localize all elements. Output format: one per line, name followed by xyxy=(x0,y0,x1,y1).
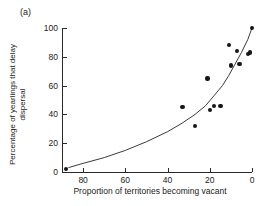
scatter-point xyxy=(64,167,68,171)
scatter-point xyxy=(208,108,212,112)
scatter-point xyxy=(248,50,252,54)
x-tick-label: 20 xyxy=(205,176,214,185)
scatter-point xyxy=(235,49,239,53)
y-tick-label: 40 xyxy=(49,110,58,119)
y-tick-label: 80 xyxy=(49,53,58,62)
scatter-point xyxy=(250,26,254,30)
fitted-curve xyxy=(62,28,252,172)
x-tick-label: 40 xyxy=(163,176,172,185)
figure-panel-a: (a) Percentage of yearlings that delay d… xyxy=(0,0,270,206)
y-tick xyxy=(63,86,67,87)
y-tick-label: 20 xyxy=(49,139,58,148)
panel-label: (a) xyxy=(20,7,31,17)
scatter-point xyxy=(237,62,241,66)
x-tick xyxy=(168,168,169,172)
y-tick xyxy=(63,57,67,58)
x-tick-label: 60 xyxy=(121,176,130,185)
y-tick xyxy=(63,143,67,144)
x-tick-label: 80 xyxy=(78,176,87,185)
scatter-point xyxy=(205,76,209,80)
x-axis-title: Proportion of territories becoming vacan… xyxy=(40,186,260,196)
y-tick-label: 60 xyxy=(49,81,58,90)
y-axis-line xyxy=(62,28,63,172)
scatter-point xyxy=(180,105,184,109)
y-tick xyxy=(63,172,67,173)
y-tick xyxy=(63,114,67,115)
x-tick-label: 0 xyxy=(250,176,255,185)
x-tick xyxy=(83,168,84,172)
y-axis-title-line-2: dispersal xyxy=(17,25,27,185)
y-axis-title-line-1: Percentage of yearlings that delay xyxy=(8,44,17,165)
y-tick-label: 100 xyxy=(44,24,58,33)
scatter-point xyxy=(212,104,216,108)
y-axis-title: Percentage of yearlings that delay dispe… xyxy=(8,25,27,185)
scatter-point xyxy=(193,124,197,128)
x-tick xyxy=(125,168,126,172)
y-tick xyxy=(63,28,67,29)
x-axis-line xyxy=(62,172,252,173)
scatter-point xyxy=(229,63,233,67)
scatter-point xyxy=(218,104,222,108)
x-tick xyxy=(252,168,253,172)
plot-area: 020406080100 806040200 xyxy=(62,28,252,172)
scatter-point xyxy=(227,43,231,47)
x-tick xyxy=(210,168,211,172)
y-tick-label: 0 xyxy=(53,168,58,177)
